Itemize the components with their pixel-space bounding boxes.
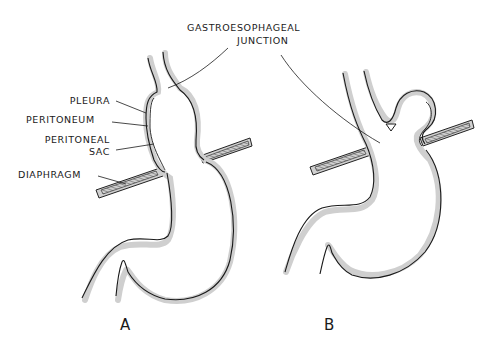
panel-label-b: B bbox=[324, 316, 334, 334]
gastroesophageal-notch-b bbox=[386, 124, 396, 131]
leader-ge-junction-b bbox=[281, 55, 380, 143]
leader-diaphragm bbox=[98, 176, 126, 184]
label-peritoneum: PERITONEUM bbox=[26, 114, 95, 125]
leader-peritoneum bbox=[112, 122, 148, 126]
diaphragm-left-a bbox=[96, 168, 163, 198]
panel-label-a: A bbox=[120, 316, 130, 334]
diagram-figure: GASTROESOPHAGEAL JUNCTION PLEURA PERITON… bbox=[0, 0, 489, 345]
label-gastroesophageal: GASTROESOPHAGEAL bbox=[187, 22, 300, 33]
membrane-shade-b bbox=[286, 72, 439, 275]
label-pleura: PLEURA bbox=[56, 95, 110, 106]
diaphragm-left-b bbox=[310, 147, 371, 175]
panel-a-drawing bbox=[82, 52, 252, 301]
panel-b-drawing bbox=[285, 71, 474, 278]
stomach-greater-curve-b bbox=[332, 150, 441, 278]
leader-pleura bbox=[116, 101, 146, 113]
label-diaphragm: DIAPHRAGM bbox=[18, 169, 81, 180]
label-peritoneal: PERITONEAL bbox=[26, 134, 110, 145]
label-sac: SAC bbox=[56, 146, 110, 157]
label-junction: JUNCTION bbox=[237, 35, 288, 46]
